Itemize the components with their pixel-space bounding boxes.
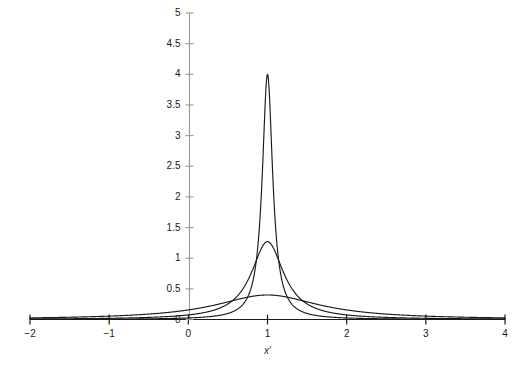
curve-narrow <box>30 74 505 319</box>
y-tick-label: 4.5 <box>141 39 181 49</box>
x-tick-label: 2 <box>327 329 367 339</box>
figure-canvas: 00.511.522.533.544.55 −2−101234 x′ <box>0 0 521 368</box>
curve-broad <box>30 295 505 318</box>
data-curves <box>30 74 505 319</box>
y-tick-label: 0.5 <box>141 284 181 294</box>
y-tick-label: 2.5 <box>141 161 181 171</box>
y-tick-label: 2 <box>141 192 181 202</box>
plot-area <box>0 0 521 368</box>
x-tick-label: 3 <box>406 329 446 339</box>
y-tick-label: 3.5 <box>141 100 181 110</box>
y-tick-label: 0 <box>141 315 181 325</box>
x-axis-title: x′ <box>248 346 288 356</box>
axes-group <box>30 13 505 320</box>
y-tick-label: 1 <box>141 253 181 263</box>
x-tick-label: 4 <box>485 329 521 339</box>
y-tick-label: 1.5 <box>141 223 181 233</box>
y-tick-label: 3 <box>141 131 181 141</box>
x-tick-label: −1 <box>89 329 129 339</box>
y-tick-label: 5 <box>141 8 181 18</box>
x-tick-label: 1 <box>248 329 288 339</box>
y-tick-label: 4 <box>141 69 181 79</box>
x-tick-label: 0 <box>168 329 208 339</box>
x-tick-label: −2 <box>10 329 50 339</box>
curve-medium <box>30 242 505 319</box>
